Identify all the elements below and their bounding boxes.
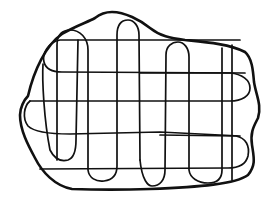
vertical-loop-2 [140,42,222,186]
blob-grid-illustration [0,0,274,201]
horizontal-loop-bottom [40,135,249,169]
line-drawing [0,0,274,201]
horizontal-loop-top [44,40,245,73]
